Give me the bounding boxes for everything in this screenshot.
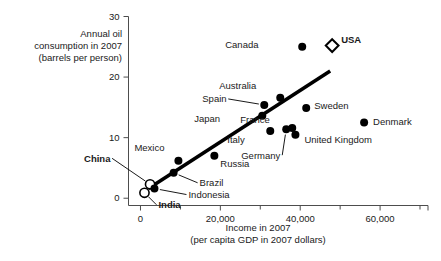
point-label-sweden: Sweden	[314, 100, 348, 111]
leader-line-spain	[228, 99, 259, 104]
x-tick-label-60000: 60,000	[340, 213, 420, 224]
point-label-italy: Italy	[227, 134, 244, 145]
x-axis-title-line-2: (per capita GDP in 2007 dollars)	[158, 234, 358, 246]
y-tick-label-0: 0	[0, 192, 120, 203]
marker-united-kingdom	[291, 131, 299, 139]
point-label-australia: Australia	[219, 80, 256, 91]
marker-usa	[326, 39, 339, 52]
leader-line-brazil	[179, 175, 198, 183]
oil-consumption-scatter-chart: IndiaChinaIndonesiaBrazilMexicoRussiaJap…	[0, 0, 441, 261]
y-tick-label-20: 20	[0, 71, 120, 82]
marker-india	[140, 188, 149, 197]
marker-australia	[276, 94, 284, 102]
point-label-mexico: Mexico	[134, 142, 164, 153]
y-axis-title-line-1: Annual oil	[10, 28, 122, 40]
point-label-united-kingdom: United Kingdom	[304, 134, 372, 145]
x-tick-label-0: 0	[100, 213, 180, 224]
point-label-denmark: Denmark	[373, 116, 412, 127]
leader-line-germany	[282, 135, 285, 156]
point-label-usa: USA	[341, 34, 361, 45]
y-axis-title-line-2: consumption in 2007	[10, 40, 122, 52]
marker-canada	[298, 43, 306, 51]
point-label-france: France	[240, 114, 270, 125]
y-axis-title-line-3: (barrels per person)	[10, 52, 122, 64]
x-axis-title-line-1: Income in 2007	[158, 222, 358, 234]
x-tick-label-40000: 40,000	[260, 213, 340, 224]
point-label-spain: Spain	[202, 93, 226, 104]
marker-mexico	[174, 157, 182, 165]
point-label-china: China	[84, 153, 110, 164]
leader-line-indonesia	[160, 190, 187, 195]
leader-line-india	[148, 197, 156, 205]
point-label-brazil: Brazil	[200, 177, 224, 188]
marker-indonesia	[150, 185, 158, 193]
point-label-canada: Canada	[225, 39, 258, 50]
marker-sweden	[302, 104, 310, 112]
marker-brazil	[170, 169, 178, 177]
y-tick-label-30: 30	[0, 11, 120, 22]
marker-italy	[266, 127, 274, 135]
point-label-indonesia: Indonesia	[188, 189, 229, 200]
x-tick-label-20000: 20,000	[180, 213, 260, 224]
y-tick-label-10: 10	[0, 132, 120, 143]
point-label-japan: Japan	[194, 113, 220, 124]
marker-russia	[210, 152, 218, 160]
y-axis-title: Annual oilconsumption in 2007(barrels pe…	[10, 28, 122, 64]
marker-spain	[260, 101, 268, 109]
x-axis-title: Income in 2007(per capita GDP in 2007 do…	[158, 222, 358, 246]
point-label-india: India	[158, 199, 180, 210]
marker-denmark	[360, 119, 368, 127]
point-label-germany: Germany	[241, 150, 280, 161]
